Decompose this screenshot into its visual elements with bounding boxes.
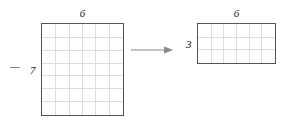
grid-line-vertical <box>236 24 237 63</box>
grid-line-horizontal <box>42 101 123 102</box>
grid-line-horizontal <box>42 75 123 76</box>
large-square-left-label: 7 <box>30 64 36 75</box>
unit-grid <box>198 24 275 63</box>
small-rectangle-left-label: 3 <box>186 38 192 49</box>
grid-line-horizontal <box>42 88 123 89</box>
small-rectangle <box>197 23 276 64</box>
grid-line-vertical <box>223 24 224 63</box>
grid-line-horizontal <box>198 37 275 38</box>
grid-line-horizontal <box>42 63 123 64</box>
large-square-top-label: 6 <box>80 8 86 19</box>
unit-grid <box>42 24 123 115</box>
transformation-arrow <box>131 45 173 55</box>
grid-line-vertical <box>261 24 262 63</box>
grid-line-vertical <box>211 24 212 63</box>
grid-line-horizontal <box>42 50 123 51</box>
small-rectangle-top-label: 6 <box>234 8 240 19</box>
diagram-canvas: 6763 <box>0 0 284 130</box>
left-dash-mark <box>10 67 20 68</box>
grid-line-horizontal <box>42 37 123 38</box>
grid-line-vertical <box>249 24 250 63</box>
grid-line-horizontal <box>198 49 275 50</box>
large-square <box>41 23 124 116</box>
